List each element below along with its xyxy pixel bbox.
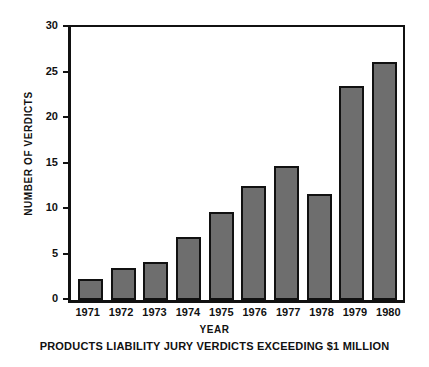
bar-slot [336,27,369,300]
x-axis-tick-label-1979: 1979 [338,306,371,318]
y-axis-tick: 25 [63,71,71,73]
y-axis-tick: 20 [63,116,71,118]
y-axis-tick: 0 [63,298,71,300]
x-axis-tick-label-1980: 1980 [372,306,405,318]
bar-1976 [241,186,266,300]
y-axis-tick: 30 [63,25,71,27]
y-axis-tick-label: 30 [46,19,58,31]
y-axis-tick-label: 15 [46,156,58,168]
bar-1979 [339,86,364,300]
y-axis-tick: 10 [63,207,71,209]
y-axis-tick: 15 [63,162,71,164]
bar-1977 [274,166,299,300]
bar-slot [107,27,140,300]
chart-figure: NUMBER OF VERDICTS 051015202530 19711972… [0,0,429,367]
bar-slot [238,27,271,300]
bar-slot [368,27,401,300]
bar-slot [205,27,238,300]
y-axis-tick-label: 25 [46,65,58,77]
x-axis-tick-label-1971: 1971 [71,306,104,318]
bar-slot [303,27,336,300]
bar-series [74,27,401,300]
x-axis-tick-label-1976: 1976 [238,306,271,318]
plot-area: 051015202530 [68,25,405,303]
bar-1980 [372,62,397,300]
x-axis-tick-label-1978: 1978 [305,306,338,318]
bar-1972 [111,268,136,300]
y-axis-tick-label: 5 [52,247,58,259]
y-axis-tick-label: 20 [46,110,58,122]
x-axis-title: YEAR [0,324,429,335]
bar-1974 [176,237,201,300]
x-axis-tick-label-1975: 1975 [205,306,238,318]
x-axis-tick-label-1974: 1974 [171,306,204,318]
bar-1971 [78,279,103,300]
y-axis-title: NUMBER OF VERDICTS [23,74,34,234]
y-axis-tick-label: 10 [46,201,58,213]
y-axis-tick-label: 0 [52,292,58,304]
x-axis-tick-labels: 1971197219731974197519761977197819791980 [71,306,405,318]
bar-slot [139,27,172,300]
chart-caption: PRODUCTS LIABILITY JURY VERDICTS EXCEEDI… [0,340,429,352]
bar-1975 [209,212,234,300]
bar-1978 [307,194,332,300]
bar-slot [270,27,303,300]
bar-1973 [143,262,168,300]
x-axis-tick-label-1972: 1972 [104,306,137,318]
y-axis-tick: 5 [63,253,71,255]
x-axis-tick-label-1973: 1973 [138,306,171,318]
x-axis-tick-label-1977: 1977 [271,306,304,318]
bar-slot [74,27,107,300]
bar-slot [172,27,205,300]
